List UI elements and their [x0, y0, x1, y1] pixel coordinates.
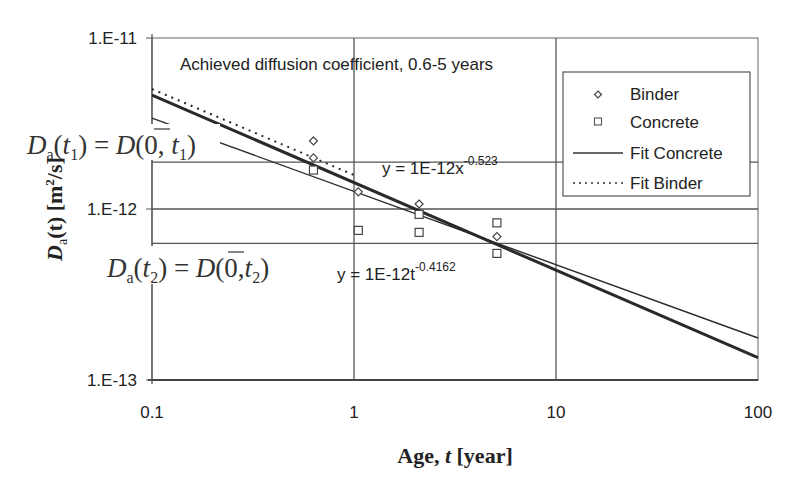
concrete-data-point: [309, 166, 317, 174]
y-ticks: 1.E-11 1.E-12 1.E-13: [87, 29, 152, 390]
concrete-data-point: [493, 219, 501, 227]
y-axis-title: Da(t) [m2/s]: [42, 157, 70, 262]
legend-label-concrete: Concrete: [630, 113, 699, 132]
concrete-data-point: [415, 210, 423, 218]
legend-label-fit-concrete: Fit Concrete: [630, 144, 723, 163]
legend-label-fit-binder: Fit Binder: [630, 174, 703, 193]
y-tick-1e-12: 1.E-12: [87, 200, 137, 219]
annotation-t2: Da(t2) = D(0,t2): [105, 246, 305, 286]
x-axis-title: Age, t [year]: [397, 443, 512, 468]
x-tick-1: 1: [349, 403, 358, 422]
concrete-data-point: [493, 249, 501, 257]
concrete-data-point: [354, 226, 362, 234]
x-tick-10: 10: [547, 403, 566, 422]
y-tick-1e-11: 1.E-11: [88, 29, 137, 48]
x-ticks: 0.1 1 10 100: [140, 403, 772, 422]
x-tick-100: 100: [744, 403, 772, 422]
chart-title: Achieved diffusion coefficient, 0.6-5 ye…: [180, 55, 493, 74]
concrete-data-point: [415, 228, 423, 236]
y-tick-1e-13: 1.E-13: [87, 371, 137, 390]
x-tick-0.1: 0.1: [140, 403, 164, 422]
legend: Binder Concrete Fit Concrete Fit Binder: [563, 72, 750, 196]
chart: 1.E-11 1.E-12 1.E-13 0.1 1 10 100 Achiev…: [0, 0, 798, 496]
legend-label-binder: Binder: [630, 85, 679, 104]
